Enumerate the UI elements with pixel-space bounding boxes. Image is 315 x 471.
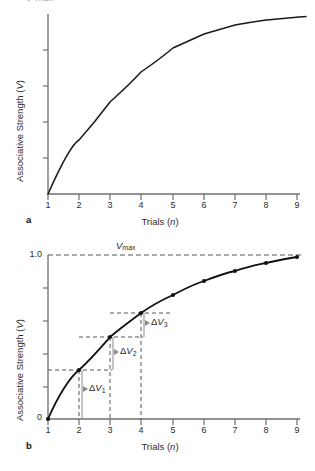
data-point-trial-5	[171, 293, 175, 297]
panel-a-xtick-3: 3	[103, 200, 117, 210]
panel-b-plot	[0, 236, 315, 436]
panel-b-xtick-4: 4	[134, 425, 148, 435]
cropped-text-remnant-label: V max	[26, 0, 116, 3]
panel-b-xtick-8: 8	[259, 425, 273, 435]
panel-a-curve	[48, 17, 306, 195]
increment-label-delta-v2: ΔV2	[120, 345, 137, 357]
increment-label-delta-v1: ΔV1	[89, 382, 106, 394]
panel-b-xtick-9: 9	[290, 425, 304, 435]
panel-b-x-axis-label: Trials (n)	[110, 441, 210, 452]
panel-b: Associative Strength (V)	[0, 236, 315, 471]
panel-b-y-ticks	[43, 288, 48, 387]
panel-a-xtick-8: 8	[259, 200, 273, 210]
data-point-trial-2	[77, 368, 81, 372]
panel-b-increment-guides	[48, 313, 170, 419]
panel-a-tag: a	[26, 214, 31, 225]
panel-b-curve	[48, 257, 297, 419]
panel-b-increment-bars	[82, 313, 144, 419]
panel-b-xtick-7: 7	[228, 425, 242, 435]
panel-a-xtick-6: 6	[197, 200, 211, 210]
panel-b-asymptote-label: Vmax	[116, 240, 136, 251]
data-point-trial-7	[233, 269, 237, 273]
data-point-trial-9	[295, 255, 299, 259]
panel-a-xtick-1: 1	[41, 200, 55, 210]
data-point-trial-1	[46, 417, 50, 421]
panel-a-xtick-2: 2	[72, 200, 86, 210]
panel-a-y-ticks	[43, 50, 48, 158]
panel-b-xtick-2: 2	[72, 425, 86, 435]
panel-a-plot	[0, 4, 315, 204]
panel-a-x-axis-label: Trials (n)	[110, 216, 210, 227]
panel-a-xtick-9: 9	[290, 200, 304, 210]
panel-a-xtick-5: 5	[166, 200, 180, 210]
panel-b-xtick-3: 3	[103, 425, 117, 435]
panel-a-xtick-4: 4	[134, 200, 148, 210]
panel-b-xtick-5: 5	[166, 425, 180, 435]
panel-a: Associative Strength (V)	[0, 4, 315, 236]
data-point-trial-8	[264, 261, 268, 265]
panel-b-xtick-6: 6	[197, 425, 211, 435]
panel-b-tag: b	[26, 440, 32, 451]
panel-a-xtick-7: 7	[228, 200, 242, 210]
figure-learning-curves: V max Associative Strength (V)	[0, 0, 315, 471]
panel-b-ytick-top: 1.0	[22, 249, 42, 259]
panel-b-data-markers	[46, 255, 299, 421]
panel-b-xtick-1: 1	[41, 425, 55, 435]
data-point-trial-4	[139, 311, 143, 315]
data-point-trial-6	[202, 279, 206, 283]
increment-label-delta-v3: ΔV3	[151, 316, 168, 328]
panel-b-ytick-bottom: 0	[28, 412, 42, 422]
data-point-trial-3	[108, 335, 112, 339]
